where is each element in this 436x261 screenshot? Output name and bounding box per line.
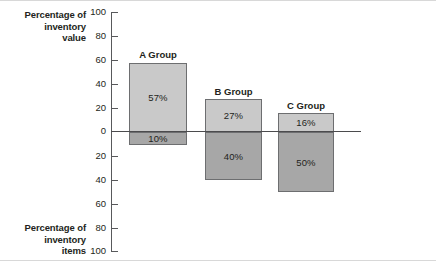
y-tick-20-top <box>111 108 118 109</box>
y-tick-40-bottom <box>111 180 118 181</box>
bar-c-above-zero-value: 16% <box>296 117 315 128</box>
y-tick-label-100-bottom: 100 <box>78 245 106 256</box>
bar-c-below-zero-value: 50% <box>296 157 315 168</box>
bar-b-above-zero-value: 27% <box>224 110 243 121</box>
y-axis-label-items-line1: Percentage of <box>0 222 86 234</box>
bar-group-b-title: B Group <box>205 86 262 97</box>
y-tick-60-bottom <box>111 204 118 205</box>
y-axis-label-value-line3: value <box>0 32 86 44</box>
y-tick-label-100-top: 100 <box>78 6 106 17</box>
y-tick-100-top <box>111 12 118 13</box>
y-axis-label-items-line2: inventory <box>0 234 86 246</box>
y-axis-label-items: Percentage of inventory items <box>0 222 86 257</box>
y-tick-60-top <box>111 60 118 61</box>
zero-baseline <box>111 131 361 132</box>
bar-group-a-title: A Group <box>129 49 187 60</box>
bar-a-below-zero-value: 10% <box>148 133 167 144</box>
y-tick-40-top <box>111 84 118 85</box>
y-tick-label-20-top: 20 <box>78 102 106 113</box>
y-tick-label-80-top: 80 <box>78 30 106 41</box>
y-tick-label-60-top: 60 <box>78 54 106 65</box>
bar-a-above-zero[interactable]: 57% <box>129 63 187 132</box>
chart-figure: Percentage of inventory value Percentage… <box>0 0 436 261</box>
bar-b-below-zero[interactable]: 40% <box>205 132 262 180</box>
y-tick-label-20-bottom: 20 <box>78 150 106 161</box>
y-tick-label-40-bottom: 40 <box>78 174 106 185</box>
bar-b-below-zero-value: 40% <box>224 151 243 162</box>
bar-a-above-zero-value: 57% <box>148 92 167 103</box>
y-axis-label-items-line3: items <box>0 245 86 257</box>
y-tick-80-top <box>111 36 118 37</box>
bar-c-below-zero[interactable]: 50% <box>278 132 334 192</box>
bar-group-c-title: C Group <box>278 100 334 111</box>
bar-a-below-zero[interactable]: 10% <box>129 132 187 145</box>
y-axis-label-value-line1: Percentage of <box>0 9 86 21</box>
y-tick-label-60-bottom: 60 <box>78 198 106 209</box>
bar-c-above-zero[interactable]: 16% <box>278 113 334 132</box>
y-tick-100-bottom <box>111 251 118 252</box>
bar-b-above-zero[interactable]: 27% <box>205 99 262 132</box>
y-tick-label-80-bottom: 80 <box>78 222 106 233</box>
y-tick-label-0: 0 <box>78 125 106 136</box>
y-axis-label-value: Percentage of inventory value <box>0 9 86 44</box>
y-tick-80-bottom <box>111 228 118 229</box>
y-tick-label-40-top: 40 <box>78 78 106 89</box>
y-axis-label-value-line2: inventory <box>0 21 86 33</box>
y-tick-20-bottom <box>111 156 118 157</box>
